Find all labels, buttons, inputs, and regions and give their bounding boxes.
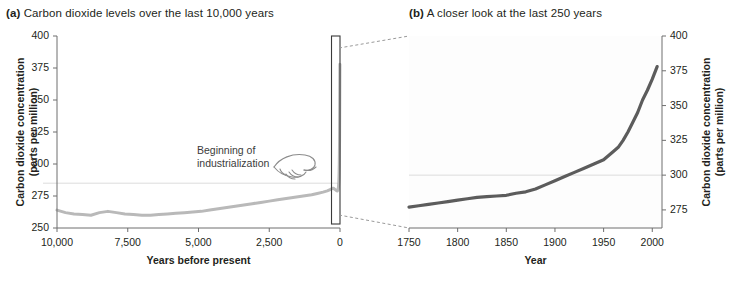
panel-b-y-ticks: [662, 36, 666, 210]
panel-a-x-tick-label-10,000: 10,000: [29, 236, 85, 248]
panel-b-y-axis-title-line-2: (parts per million): [713, 36, 726, 228]
panel-a-x-axis-title: Years before present: [143, 254, 255, 266]
pointing-hand-icon: [272, 150, 318, 188]
panel-a-y-axis-title-line-1: Carbon dioxide concentration: [14, 36, 27, 228]
panel-a-title: (a) Carbon dioxide levels over the last …: [6, 7, 274, 19]
panel-a-tag: (a): [6, 7, 20, 19]
panel-b-title: (b) A closer look at the last 250 years: [409, 7, 602, 19]
panel-b-y-tick-label-325: 325: [670, 133, 704, 145]
leader-line-top: [339, 36, 409, 48]
co2-curve-panel-a: [57, 64, 340, 215]
panel-a-x-tick-label-5,000: 5,000: [171, 236, 227, 248]
co2-curve-panel-b: [409, 67, 657, 208]
panel-b-title-text: A closer look at the last 250 years: [427, 7, 602, 19]
panel-b-x-tick-label-2000: 2000: [624, 236, 680, 248]
annotation-line-1: Beginning of: [197, 144, 269, 157]
panel-a-plot-area: [57, 36, 340, 228]
panel-b-x-ticks: [409, 228, 652, 232]
panel-b-x-tick-label-1750: 1750: [381, 236, 437, 248]
panel-b-plot-area: [409, 36, 662, 228]
panel-a-x-tick-label-2,500: 2,500: [241, 236, 297, 248]
panel-b-y-tick-label-400: 400: [670, 29, 704, 41]
panel-a-y-axis-title: Carbon dioxide concentration(parts per m…: [14, 36, 39, 228]
panel-b-tag: (b): [409, 7, 424, 19]
panel-a-x-tick-label-7,500: 7,500: [100, 236, 156, 248]
leader-line-bottom: [339, 215, 409, 228]
panel-b-x-tick-label-1800: 1800: [430, 236, 486, 248]
panel-b-y-tick-label-375: 375: [670, 64, 704, 76]
industrialization-annotation: Beginning of industrialization: [197, 144, 269, 170]
panel-a-svg: [57, 36, 340, 228]
panel-b-x-tick-label-1850: 1850: [478, 236, 534, 248]
panel-a-title-text: Carbon dioxide levels over the last 10,0…: [24, 7, 274, 19]
panel-b-x-tick-label-1900: 1900: [527, 236, 583, 248]
panel-b-y-axis-title: Carbon dioxide concentration(parts per m…: [700, 36, 725, 228]
annotation-line-2: industrialization: [197, 157, 269, 170]
panel-b-x-tick-label-1950: 1950: [576, 236, 632, 248]
panel-a-y-ticks: [53, 36, 57, 228]
panel-b-svg: [409, 36, 662, 228]
panel-b-y-tick-label-275: 275: [670, 203, 704, 215]
panel-b-y-tick-label-350: 350: [670, 99, 704, 111]
panel-a-y-axis-title-line-2: (parts per million): [27, 36, 40, 228]
panel-b-y-axis-title-line-1: Carbon dioxide concentration: [700, 36, 713, 228]
co2-two-panel-figure: (a) Carbon dioxide levels over the last …: [0, 0, 731, 282]
panel-a-x-ticks: [57, 228, 340, 232]
panel-b-x-axis-title: Year: [496, 254, 576, 266]
panel-a-x-tick-label-0: 0: [312, 236, 368, 248]
panel-b-y-tick-label-300: 300: [670, 168, 704, 180]
